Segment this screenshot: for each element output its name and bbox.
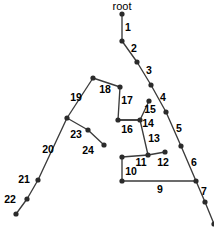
edge-label-21: 21 — [18, 173, 30, 185]
edge-label-9: 9 — [157, 183, 163, 195]
edge-label-5: 5 — [176, 122, 182, 134]
graph-node-n1 — [119, 38, 124, 43]
root-label: root — [113, 0, 132, 12]
edge-label-17: 17 — [121, 94, 133, 106]
edge-labels-layer: 12345679101112131415161718192021222324 — [4, 21, 207, 205]
graph-node-n23 — [13, 211, 18, 216]
nodes-layer — [13, 11, 214, 226]
graph-node-n5 — [178, 143, 183, 148]
graph-edge-17 — [118, 87, 120, 120]
graph-node-n0 — [119, 11, 124, 16]
graph-edge-22 — [16, 199, 27, 214]
graph-node-n10 — [119, 154, 124, 159]
graph-node-n9 — [119, 178, 124, 183]
graph-node-n12 — [162, 149, 167, 154]
edge-label-16: 16 — [121, 123, 133, 135]
edge-label-19: 19 — [70, 91, 82, 103]
edge-label-24: 24 — [82, 144, 94, 156]
edge-label-15: 15 — [144, 103, 156, 115]
graph-node-n7 — [202, 199, 207, 204]
edges-layer — [16, 14, 214, 224]
edge-label-4: 4 — [160, 91, 166, 103]
edge-label-14: 14 — [142, 117, 154, 129]
graph-node-n16 — [115, 117, 120, 122]
edge-label-18: 18 — [99, 83, 111, 95]
graph-node-n24 — [85, 127, 90, 132]
edge-label-2: 2 — [131, 42, 137, 54]
edge-label-7: 7 — [201, 185, 207, 197]
edge-label-22: 22 — [4, 193, 16, 205]
edge-label-11: 11 — [135, 156, 146, 168]
edge-label-23: 23 — [70, 128, 82, 140]
edge-label-20: 20 — [42, 143, 54, 155]
edge-label-3: 3 — [146, 64, 152, 76]
graph-figure: 12345679101112131415161718192021222324 r… — [0, 0, 214, 228]
edge-label-6: 6 — [191, 156, 197, 168]
graph-node-n25 — [101, 142, 106, 147]
graph-node-n17 — [117, 84, 122, 89]
graph-edge-24 — [88, 130, 104, 145]
graph-node-n22 — [24, 196, 29, 201]
graph-canvas: 12345679101112131415161718192021222324 r… — [0, 0, 214, 228]
graph-edge-extra-0 — [205, 202, 214, 224]
graph-node-n3 — [148, 82, 153, 87]
edge-label-1: 1 — [125, 21, 131, 33]
graph-node-n18 — [90, 75, 95, 80]
graph-node-n19 — [64, 115, 69, 120]
edge-label-12: 12 — [157, 156, 169, 168]
graph-node-n2 — [134, 59, 139, 64]
graph-node-n6 — [193, 178, 198, 183]
graph-node-n21 — [35, 177, 40, 182]
graph-node-n8 — [211, 221, 214, 226]
edge-label-13: 13 — [148, 132, 160, 144]
graph-node-n4 — [163, 109, 168, 114]
